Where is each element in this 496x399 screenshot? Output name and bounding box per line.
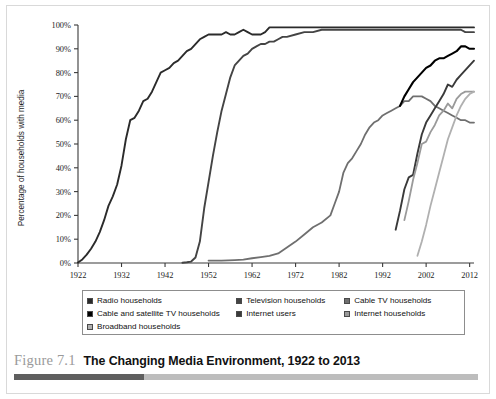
series-line-cable-and-satellite-tv-households	[400, 46, 474, 106]
legend-swatch-icon	[87, 324, 93, 330]
y-tick-label: 70%	[56, 92, 71, 101]
legend-swatch-icon	[236, 298, 242, 304]
legend-label: Cable TV households	[354, 295, 431, 306]
legend-label: Internet users	[246, 308, 296, 319]
caption-title: The Changing Media Environment, 1922 to …	[84, 354, 361, 368]
x-tick-label: 1972	[287, 271, 304, 280]
y-tick-label: 50%	[56, 140, 71, 149]
legend-label: Television households	[246, 295, 325, 306]
figure-caption: Figure 7.1 The Changing Media Environmen…	[14, 352, 478, 369]
caption-rule-light-segment	[144, 374, 478, 380]
x-axis: 1922193219421952196219721982199220022012	[70, 263, 478, 280]
y-tick-label: 80%	[56, 69, 71, 78]
line-chart: 0%10%20%30%40%50%60%70%80%90%100% 192219…	[10, 8, 486, 286]
y-tick-label: 40%	[56, 164, 71, 173]
legend-label: Internet households	[354, 308, 425, 319]
legend-item-television-households[interactable]: Television households	[236, 295, 344, 306]
chart-panel: 0%10%20%30%40%50%60%70%80%90%100% 192219…	[10, 8, 486, 286]
chart-legend: Radio households Television households C…	[82, 290, 465, 335]
x-tick-label: 2002	[418, 271, 435, 280]
series-line-cable-tv-households	[209, 96, 474, 260]
caption-rule-dark-segment	[14, 374, 144, 380]
legend-swatch-icon	[236, 311, 242, 317]
chart-series-group	[78, 27, 474, 262]
legend-swatch-icon	[87, 311, 93, 317]
x-tick-label: 1932	[113, 271, 130, 280]
series-line-internet-households	[404, 92, 474, 221]
y-axis: 0%10%20%30%40%50%60%70%80%90%100%	[51, 21, 78, 268]
y-tick-label: 60%	[56, 116, 71, 125]
legend-row: Broadband households	[87, 320, 460, 333]
figure-container: 0%10%20%30%40%50%60%70%80%90%100% 192219…	[0, 0, 496, 399]
y-tick-label: 20%	[56, 211, 71, 220]
y-tick-label: 10%	[56, 235, 71, 244]
legend-row: Cable and satellite TV households Intern…	[87, 307, 460, 320]
x-tick-label: 1962	[244, 271, 261, 280]
legend-label: Broadband households	[97, 321, 180, 332]
legend-swatch-icon	[344, 298, 350, 304]
y-axis-title: Percentage of households with media	[17, 89, 26, 226]
legend-item-cable-and-satellite-tv-households[interactable]: Cable and satellite TV households	[87, 308, 236, 319]
series-line-radio-households	[78, 27, 474, 262]
y-tick-label: 100%	[51, 21, 71, 30]
legend-swatch-icon	[87, 298, 93, 304]
caption-rule-bar	[14, 374, 478, 380]
y-tick-label: 0%	[60, 259, 71, 268]
legend-item-cable-tv-households[interactable]: Cable TV households	[344, 295, 460, 306]
legend-item-internet-households[interactable]: Internet households	[344, 308, 460, 319]
legend-label: Radio households	[97, 295, 162, 306]
x-tick-label: 1952	[200, 271, 217, 280]
legend-row: Radio households Television households C…	[87, 294, 460, 307]
y-tick-label: 90%	[56, 45, 71, 54]
x-tick-label: 1922	[70, 271, 87, 280]
legend-item-internet-users[interactable]: Internet users	[236, 308, 344, 319]
x-tick-label: 1982	[331, 271, 348, 280]
series-line-broadband-households	[417, 92, 474, 256]
legend-item-broadband-households[interactable]: Broadband households	[87, 321, 239, 332]
legend-swatch-icon	[344, 311, 350, 317]
x-tick-label: 1992	[374, 271, 391, 280]
legend-item-radio-households[interactable]: Radio households	[87, 295, 236, 306]
x-tick-label: 2012	[461, 271, 478, 280]
x-tick-label: 1942	[157, 271, 174, 280]
caption-line: Figure 7.1 The Changing Media Environmen…	[14, 352, 478, 369]
legend-label: Cable and satellite TV households	[97, 308, 220, 319]
figure-number: Figure 7.1	[14, 352, 76, 369]
y-tick-label: 30%	[56, 188, 71, 197]
